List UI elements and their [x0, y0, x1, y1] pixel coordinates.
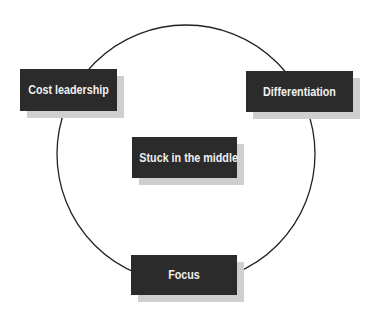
- node-label: Cost leadership: [27, 83, 110, 97]
- node-label: Stuck in the middle: [139, 151, 229, 165]
- node-label: Focus: [138, 268, 229, 282]
- node-differentiation: Differentiation: [246, 71, 353, 112]
- node-focus: Focus: [131, 255, 237, 295]
- strategy-diagram: Cost leadership Differentiation Stuck in…: [0, 0, 378, 316]
- node-stuck-in-the-middle: Stuck in the middle: [132, 137, 237, 178]
- node-label: Differentiation: [253, 85, 345, 99]
- node-cost-leadership: Cost leadership: [20, 69, 117, 111]
